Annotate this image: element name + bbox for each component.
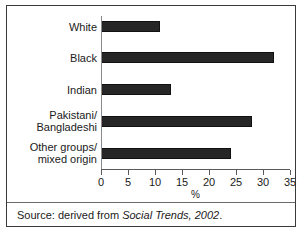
bar-white[interactable]: [101, 21, 160, 32]
x-tick: [182, 170, 183, 175]
bar-series: [7, 6, 297, 169]
x-axis-title: %: [101, 189, 290, 200]
x-tick: [236, 170, 237, 175]
x-tick-label: 30: [257, 176, 269, 188]
bar-other-groups[interactable]: [101, 148, 231, 159]
bar-black[interactable]: [101, 52, 274, 63]
source-prefix: Source: derived from: [17, 209, 122, 221]
x-tick: [101, 170, 102, 175]
bar-indian[interactable]: [101, 84, 171, 95]
chart-frame: White Black Indian Pakistani/ Bangladesh…: [6, 5, 296, 227]
x-tick-label: 0: [98, 176, 104, 188]
x-tick-label: 10: [149, 176, 161, 188]
x-tick: [263, 170, 264, 175]
x-tick-label: 15: [176, 176, 188, 188]
bar-pakistani-bangladeshi[interactable]: [101, 116, 252, 127]
source-suffix: .: [219, 209, 222, 221]
x-tick-label: 35: [284, 176, 296, 188]
x-tick: [290, 170, 291, 175]
x-tick: [155, 170, 156, 175]
x-tick-label: 25: [230, 176, 242, 188]
source-publication-title: Social Trends, 2002: [122, 209, 219, 221]
x-tick-label: 20: [203, 176, 215, 188]
x-tick: [209, 170, 210, 175]
source-caption: Source: derived from Social Trends, 2002…: [17, 209, 222, 221]
figure-container: White Black Indian Pakistani/ Bangladesh…: [0, 0, 304, 237]
x-tick: [128, 170, 129, 175]
x-axis-line: [101, 169, 290, 170]
y-axis-line: [101, 16, 102, 169]
x-tick-label: 5: [125, 176, 131, 188]
plot-area: White Black Indian Pakistani/ Bangladesh…: [7, 6, 297, 191]
caption-divider: [7, 202, 295, 203]
